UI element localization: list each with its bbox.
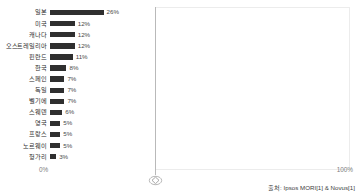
bar-track: 8% bbox=[50, 62, 361, 73]
category-label: 영국 bbox=[0, 120, 50, 126]
bar-row: 핀란드11% bbox=[0, 51, 361, 62]
bar-value-label: 8% bbox=[69, 65, 78, 71]
bar-track: 5% bbox=[50, 118, 361, 129]
bar-track: 7% bbox=[50, 85, 361, 96]
bar-track: 11% bbox=[50, 51, 361, 62]
bar bbox=[50, 43, 75, 48]
bar-track: 26% bbox=[50, 7, 361, 18]
bar bbox=[50, 121, 60, 126]
diamond-marker-icon bbox=[148, 172, 163, 183]
category-label: 미국 bbox=[0, 21, 50, 27]
bar-value-label: 5% bbox=[63, 131, 72, 137]
bar-row: 노르웨이5% bbox=[0, 140, 361, 151]
category-label: 독일 bbox=[0, 87, 50, 93]
bar bbox=[50, 88, 64, 93]
bar-track: 5% bbox=[50, 129, 361, 140]
bar-row: 헝가리3% bbox=[0, 151, 361, 162]
source-attribution: 출처: Ipsos MORI[1] & Novus[1] bbox=[268, 183, 355, 192]
bar bbox=[50, 76, 64, 81]
bar-row: 스웨덴6% bbox=[0, 107, 361, 118]
category-label: 헝가리 bbox=[0, 154, 50, 160]
category-label: 프랑스 bbox=[0, 131, 50, 137]
axis-tick-min: 0% bbox=[39, 166, 48, 173]
bar bbox=[50, 21, 75, 26]
bar-track: 3% bbox=[50, 151, 361, 162]
bar-row: 일본26% bbox=[0, 7, 361, 18]
bar-rows-container: 일본26%미국12%캐나다12%오스트레일리아12%핀란드11%한국8%스페인7… bbox=[0, 7, 361, 162]
bar-row: 벨기에7% bbox=[0, 96, 361, 107]
bar bbox=[50, 32, 75, 37]
bar-track: 5% bbox=[50, 140, 361, 151]
bar bbox=[50, 54, 73, 59]
bar bbox=[50, 143, 60, 148]
category-label: 캐나다 bbox=[0, 32, 50, 38]
bar-track: 12% bbox=[50, 40, 361, 51]
bar-value-label: 7% bbox=[67, 76, 76, 82]
bar bbox=[50, 65, 66, 70]
bar-track: 12% bbox=[50, 29, 361, 40]
category-label: 한국 bbox=[0, 65, 50, 71]
category-label: 일본 bbox=[0, 9, 50, 15]
bar bbox=[50, 154, 56, 159]
bar-track: 7% bbox=[50, 96, 361, 107]
bar-chart: 일본26%미국12%캐나다12%오스트레일리아12%핀란드11%한국8%스페인7… bbox=[0, 0, 361, 196]
bar-track: 12% bbox=[50, 18, 361, 29]
bar-value-label: 11% bbox=[76, 54, 88, 60]
bar-track: 6% bbox=[50, 107, 361, 118]
category-label: 스웨덴 bbox=[0, 109, 50, 115]
bar bbox=[50, 132, 60, 137]
bar bbox=[50, 10, 104, 15]
category-label: 오스트레일리아 bbox=[0, 43, 50, 49]
bar-row: 스페인7% bbox=[0, 74, 361, 85]
bar bbox=[50, 110, 62, 115]
axis-tick-max: 100% bbox=[337, 166, 353, 173]
bar-row: 프랑스5% bbox=[0, 129, 361, 140]
bar-value-label: 5% bbox=[63, 143, 72, 149]
bar-row: 한국8% bbox=[0, 62, 361, 73]
category-label: 스페인 bbox=[0, 76, 50, 82]
bar-row: 독일7% bbox=[0, 85, 361, 96]
bar-value-label: 5% bbox=[63, 120, 72, 126]
bar-value-label: 12% bbox=[78, 43, 90, 49]
bar-track: 7% bbox=[50, 74, 361, 85]
category-label: 벨기에 bbox=[0, 98, 50, 104]
bar-value-label: 26% bbox=[107, 9, 119, 15]
bar-row: 미국12% bbox=[0, 18, 361, 29]
bar-row: 영국5% bbox=[0, 118, 361, 129]
bar bbox=[50, 99, 64, 104]
bar-value-label: 12% bbox=[78, 21, 90, 27]
bar-value-label: 7% bbox=[67, 98, 76, 104]
bar-row: 캐나다12% bbox=[0, 29, 361, 40]
bar-row: 오스트레일리아12% bbox=[0, 40, 361, 51]
bar-value-label: 6% bbox=[65, 109, 74, 115]
bar-value-label: 7% bbox=[67, 87, 76, 93]
category-label: 노르웨이 bbox=[0, 143, 50, 149]
bar-value-label: 12% bbox=[78, 32, 90, 38]
category-label: 핀란드 bbox=[0, 54, 50, 60]
bar-value-label: 3% bbox=[59, 154, 68, 160]
